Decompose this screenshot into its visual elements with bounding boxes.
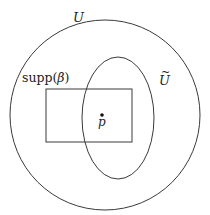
label-U: U — [73, 11, 84, 24]
tilde-accent: ~ — [161, 67, 170, 78]
neighborhood-U-tilde — [82, 57, 154, 179]
beta-symbol: β — [57, 70, 64, 85]
supp-text: supp — [22, 70, 52, 85]
set-diagram — [0, 0, 210, 215]
support-rectangle — [46, 89, 132, 142]
label-U-tilde: U ~ — [159, 74, 170, 87]
supp-close-paren: ) — [65, 70, 70, 85]
label-supp-beta: supp(β) — [22, 72, 69, 85]
label-p: p — [98, 116, 106, 128]
